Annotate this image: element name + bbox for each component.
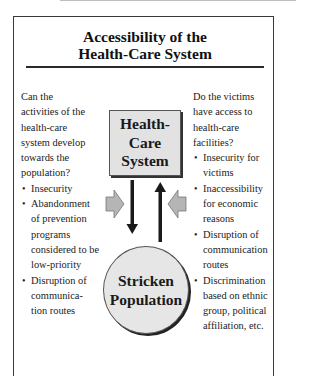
node-label-line: Health- [120,115,170,132]
left-bullet-item: Insecurity [21,181,103,196]
left-column: Can the activities of the health-care sy… [21,89,103,318]
left-bullet-list: Insecurity Abandonment of prevention pro… [21,181,103,319]
stricken-population-circle: Stricken Population [103,246,189,334]
right-column: Do the victims have access to health-car… [193,89,275,334]
left-question-line: activities of the [21,106,85,117]
arrow-down-icon [127,180,139,234]
node-label-line: Population [110,291,182,308]
right-question-line: have access to [193,106,252,117]
right-bullet-item: Insecurity for victims [193,150,271,181]
left-bullet-item: Abandonment of prevention programs consi… [21,196,101,272]
right-question: Do the victims have access to health-car… [193,89,275,150]
left-question-line: system develop [21,137,85,148]
top-edge-line [60,0,296,1]
arrow-up-icon [155,182,167,242]
title-line-1: Accessibility of the [26,28,264,45]
health-care-system-box: Health- Care System [109,110,181,176]
flow-arrows [100,178,196,244]
left-question-line: Can the [21,91,53,102]
left-question-line: towards the [21,152,69,163]
title-underline [26,66,264,68]
right-bullet-item: Discrimination based on ethnic group, po… [193,273,277,334]
left-bullet-item: Disruption of communica-tion routes [21,273,99,319]
title-line-2: Health-Care System [26,45,264,62]
node-label-line: Care [129,134,161,151]
right-question-line: Do the victims [193,91,254,102]
slide-title: Accessibility of the Health-Care System [26,28,264,62]
left-question-line: health-care [21,122,67,133]
side-arrow-left-icon [106,190,124,218]
right-bullet-item: Inaccessibility for economic reasons [193,181,275,227]
right-question-line: health-care [193,122,239,133]
right-question-line: facilities? [193,137,233,148]
right-bullet-item: Disruption of communication routes [193,227,277,273]
node-label-line: Stricken [118,272,174,289]
left-question-line: population? [21,167,70,178]
side-arrow-right-icon [168,190,186,218]
node-label-line: System [121,152,168,169]
right-bullet-list: Insecurity for victims Inaccessibility f… [193,150,275,334]
left-question: Can the activities of the health-care sy… [21,89,103,181]
